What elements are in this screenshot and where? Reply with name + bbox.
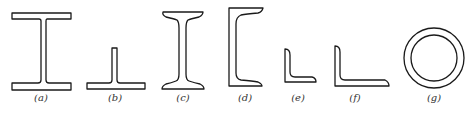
section-b-t-section: (b) — [87, 48, 145, 103]
section-a-i-beam: (a) — [12, 13, 71, 103]
section-d-channel: (d) — [229, 8, 263, 103]
label-b: (b) — [108, 92, 122, 103]
section-f-unequal-angle: (f) — [335, 46, 389, 103]
label-e: (e) — [291, 92, 305, 103]
label-a: (a) — [34, 92, 48, 103]
tube-inner-circle — [411, 35, 457, 81]
label-g: (g) — [427, 92, 441, 103]
section-e-equal-angle: (e) — [285, 49, 316, 103]
label-f: (f) — [349, 92, 361, 103]
label-c: (c) — [176, 92, 190, 103]
section-g-circular-tube: (g) — [404, 28, 464, 103]
section-c-rolled-i-beam: (c) — [162, 12, 204, 103]
label-d: (d) — [238, 92, 252, 103]
steel-sections-diagram: (a) (b) (c) (d) (e) (f) (g) — [0, 0, 470, 114]
